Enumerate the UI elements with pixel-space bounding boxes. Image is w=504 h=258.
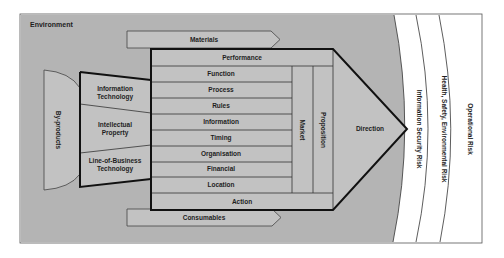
direction-label: Direction bbox=[356, 125, 384, 132]
risk-health-safety-environmental: Health, Safety, Environmental Risk bbox=[440, 76, 448, 183]
row-organisation: Organisation bbox=[201, 150, 241, 158]
left-block-label-1a: Information bbox=[97, 85, 133, 92]
left-block-label-2a: Intellectual bbox=[98, 121, 132, 128]
row-action: Action bbox=[232, 198, 252, 205]
value-chain-diagram: Environment Materials Consumables By-pro… bbox=[0, 0, 504, 258]
left-block-label-3a: Line-of-Business bbox=[89, 157, 142, 164]
row-function: Function bbox=[207, 70, 234, 77]
risk-information-security: Information Security Risk bbox=[415, 90, 423, 169]
row-timing: Timing bbox=[210, 134, 231, 142]
risk-operational: Operational Risk bbox=[466, 103, 474, 155]
row-process: Process bbox=[208, 86, 234, 93]
row-financial: Financial bbox=[207, 165, 235, 172]
row-information: Information bbox=[203, 118, 239, 125]
by-products-label: By-products bbox=[54, 111, 62, 150]
column-market: Market bbox=[299, 120, 306, 142]
row-location: Location bbox=[207, 181, 234, 188]
left-block-label-3b: Technology bbox=[97, 165, 133, 173]
left-block-label-1b: Technology bbox=[97, 93, 133, 101]
column-proposition: Proposition bbox=[319, 112, 327, 148]
environment-label: Environment bbox=[30, 21, 73, 28]
consumables-label: Consumables bbox=[183, 214, 226, 221]
row-performance: Performance bbox=[222, 54, 262, 61]
left-block-label-2b: Property bbox=[102, 129, 129, 137]
materials-label: Materials bbox=[190, 36, 219, 43]
row-rules: Rules bbox=[212, 102, 230, 109]
